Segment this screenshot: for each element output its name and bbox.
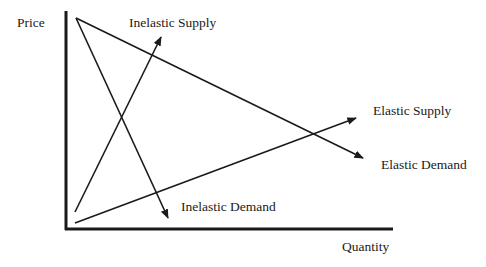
elastic-supply-label: Elastic Supply bbox=[373, 104, 451, 118]
elastic-demand-label: Elastic Demand bbox=[381, 158, 467, 172]
inelastic-supply-curve bbox=[75, 37, 161, 212]
elastic-demand-curve bbox=[76, 18, 363, 158]
inelastic-supply-label: Inelastic Supply bbox=[129, 16, 216, 30]
x-axis-label: Quantity bbox=[342, 240, 389, 254]
elasticity-diagram bbox=[0, 0, 486, 267]
y-axis-label: Price bbox=[17, 16, 45, 30]
inelastic-demand-curve bbox=[76, 18, 168, 218]
inelastic-demand-label: Inelastic Demand bbox=[181, 200, 276, 214]
